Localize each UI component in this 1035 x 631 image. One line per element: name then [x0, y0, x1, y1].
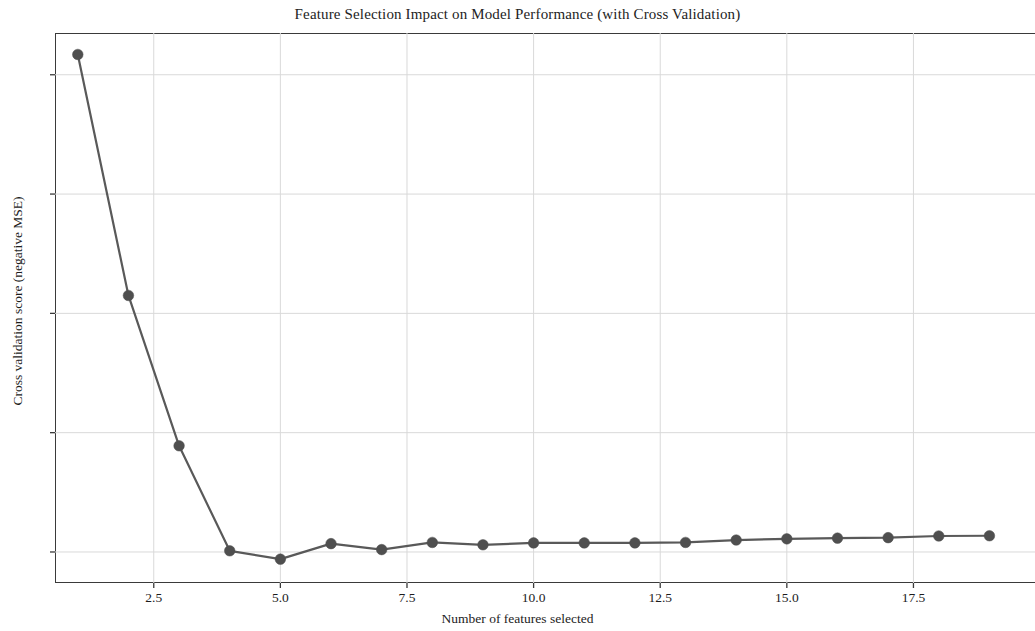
x-tick-label: 12.5: [648, 590, 672, 606]
x-tick-label: 10.0: [522, 590, 546, 606]
x-tick-label: 7.5: [399, 590, 416, 606]
x-axis-label: Number of features selected: [0, 611, 1035, 627]
chart-title: Feature Selection Impact on Model Perfor…: [0, 6, 1035, 23]
x-tick-label: 5.0: [272, 590, 289, 606]
plot-area: [55, 33, 1035, 583]
x-tick-label: 15.0: [775, 590, 799, 606]
y-axis-label: Cross validation score (negative MSE): [10, 21, 26, 581]
x-tick-label: 2.5: [145, 590, 162, 606]
x-tick-label: 17.5: [902, 590, 926, 606]
chart-figure: Feature Selection Impact on Model Perfor…: [0, 0, 1035, 631]
